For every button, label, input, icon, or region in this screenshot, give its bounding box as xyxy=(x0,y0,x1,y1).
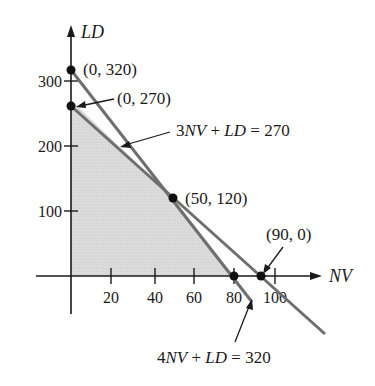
x-axis-arrow-icon xyxy=(310,272,322,280)
label-50-120: (50, 120) xyxy=(185,189,247,208)
y-tick-300: 300 xyxy=(38,73,62,90)
label-0-320: (0, 320) xyxy=(83,60,137,79)
y-tick-100: 100 xyxy=(38,203,62,220)
arrow-eq2 xyxy=(235,304,250,342)
arrowhead-icon xyxy=(76,101,86,108)
point-0-270 xyxy=(67,102,76,111)
feasible-region-chart: 300 200 100 20 40 60 80 100 LD NV (0, 32… xyxy=(0,0,375,386)
x-tick-40: 40 xyxy=(147,289,163,306)
point-50-120 xyxy=(169,194,178,203)
y-axis-label: LD xyxy=(80,22,104,42)
y-axis-arrow-icon xyxy=(67,25,75,37)
x-tick-80: 80 xyxy=(226,289,242,306)
point-0-320 xyxy=(67,66,76,75)
x-tick-20: 20 xyxy=(103,289,119,306)
equation-4nv-ld-320: 4NV + LD = 320 xyxy=(157,348,271,367)
equation-3nv-ld-270: 3NV + LD = 270 xyxy=(176,121,290,140)
y-tick-200: 200 xyxy=(38,138,62,155)
point-80-0 xyxy=(230,272,239,281)
x-axis-label: NV xyxy=(328,266,354,286)
x-tick-60: 60 xyxy=(186,289,202,306)
label-90-0: (90, 0) xyxy=(266,225,311,244)
arrow-eq1 xyxy=(125,132,170,145)
label-0-270: (0, 270) xyxy=(117,89,171,108)
